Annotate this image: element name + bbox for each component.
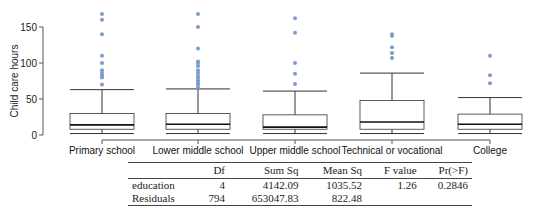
column-header-sum-sq: Sum Sq	[229, 163, 302, 179]
outlier-point	[488, 73, 492, 77]
iqr-box	[360, 100, 424, 129]
cell-sum-sq: 4142.09	[229, 179, 302, 193]
column-header-mean-sq: Mean Sq	[302, 163, 366, 179]
outlier-point	[100, 83, 104, 87]
column-header-f-value: F value	[366, 163, 421, 179]
boxplots	[70, 12, 522, 134]
outlier-point	[196, 60, 200, 64]
y-axis: 050100150	[20, 22, 43, 141]
outlier-point	[100, 18, 104, 22]
y-tick-label: 50	[26, 94, 38, 105]
y-tick-label: 100	[20, 58, 37, 69]
iqr-box	[70, 113, 134, 129]
table-row-education: education 4 4142.09 1035.52 1.26 0.2846	[128, 179, 472, 193]
outlier-point	[100, 12, 104, 16]
x-tick-label: Lower middle school	[152, 145, 243, 156]
cell-mean-sq: 822.48	[302, 192, 366, 206]
outlier-point	[196, 12, 200, 16]
outlier-point	[293, 82, 297, 86]
x-tick-label: College	[473, 145, 507, 156]
cell-df: 794	[196, 192, 229, 206]
outlier-point	[100, 61, 104, 65]
iqr-box	[458, 114, 522, 129]
boxplot-primary-school	[70, 12, 134, 134]
outlier-point	[488, 81, 492, 85]
cell-df: 4	[196, 179, 229, 193]
outlier-point	[100, 54, 104, 58]
table-row-residuals: Residuals 794 653047.83 822.48	[128, 192, 472, 206]
cell-f-value: 1.26	[366, 179, 421, 193]
column-header-p-value: Pr(>F)	[421, 163, 472, 179]
x-axis: Primary schoolLower middle schoolUpper m…	[69, 140, 507, 156]
outlier-point	[196, 25, 200, 29]
outlier-point	[390, 45, 394, 49]
iqr-box	[166, 113, 230, 129]
outlier-point	[196, 68, 200, 72]
outlier-point	[293, 16, 297, 20]
outlier-point	[100, 32, 104, 36]
column-header-df: Df	[196, 163, 229, 179]
cell-sum-sq: 653047.83	[229, 192, 302, 206]
x-tick-label: Upper middle school	[249, 145, 340, 156]
outlier-point	[100, 68, 104, 72]
row-label: education	[128, 179, 196, 193]
outlier-point	[390, 51, 394, 55]
y-tick-label: 150	[20, 22, 37, 33]
x-tick-label: Primary school	[69, 145, 135, 156]
outlier-point	[390, 32, 394, 36]
outlier-point	[293, 31, 297, 35]
column-header	[128, 163, 196, 179]
row-label: Residuals	[128, 192, 196, 206]
outlier-point	[196, 47, 200, 51]
boxplot-chart: 050100150 Child care hours Primary schoo…	[0, 0, 538, 160]
outlier-point	[293, 61, 297, 65]
y-axis-label: Child care hours	[9, 45, 20, 118]
anova-table: Df Sum Sq Mean Sq F value Pr(>F) educati…	[128, 162, 472, 206]
outlier-point	[293, 72, 297, 76]
cell-mean-sq: 1035.52	[302, 179, 366, 193]
x-tick-label: Technical or vocational	[341, 145, 442, 156]
boxplot-lower-middle-school	[166, 12, 230, 134]
cell-p-value: 0.2846	[421, 179, 472, 193]
y-tick-label: 0	[31, 130, 37, 141]
table-header-row: Df Sum Sq Mean Sq F value Pr(>F)	[128, 163, 472, 179]
boxplot-college	[458, 54, 522, 134]
boxplot-upper-middle-school	[263, 16, 327, 133]
outlier-point	[390, 56, 394, 60]
outlier-point	[488, 54, 492, 58]
cell-p-value	[421, 192, 472, 206]
cell-f-value	[366, 192, 421, 206]
boxplot-technical-or-vocational	[360, 32, 424, 133]
